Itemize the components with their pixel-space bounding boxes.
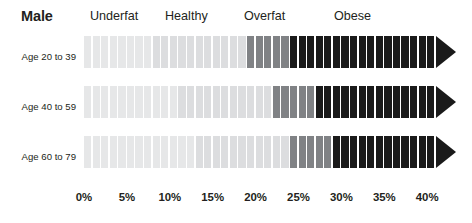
bar-segment-underfat [135,86,142,118]
axis-tick-20: 20% [244,191,267,203]
bar-segment-healthy [264,136,271,168]
bar-segment-underfat [93,36,100,68]
bar-segment-obese [419,86,426,118]
bar-segment-obese [376,136,383,168]
bar-row [0,36,472,68]
bar-segment-underfat [93,136,100,168]
bar-segment-obese [393,86,400,118]
bar-segment-overfat [281,36,288,68]
bar-segment-obese [376,86,383,118]
bar-segment-obese [367,136,374,168]
bar-segment-overfat [316,136,323,168]
bar-segment-obese [410,36,417,68]
bar-segment-underfat [170,136,177,168]
bar-segment-underfat [170,86,177,118]
bar-segment-healthy [213,36,220,68]
axis-tick-5: 5% [119,191,135,203]
category-label-healthy: Healthy [165,9,208,23]
axis-tick-35: 35% [373,191,396,203]
bar-segment-healthy [204,136,211,168]
bar-segment-obese [341,86,348,118]
bar-segment-obese [401,136,408,168]
bar-segment-overfat [307,136,314,168]
bar-segment-obese [316,36,323,68]
bar-segment-obese [307,36,314,68]
bar-segment-healthy [178,86,185,118]
bar-segment-healthy [204,36,211,68]
bar-segment-obese [316,86,323,118]
bar-segment-underfat [144,86,151,118]
bar-segment-obese [333,86,340,118]
bar-segment-healthy [196,86,203,118]
bar-arrowhead [436,36,456,68]
bar-segment-underfat [127,36,134,68]
bar-segment-overfat [290,86,297,118]
bar-segment-overfat [290,136,297,168]
bar-segment-obese [427,136,434,168]
bar-segment-obese [410,136,417,168]
bar-segment-overfat [247,36,254,68]
bar-segment-obese [393,36,400,68]
bar-segment-healthy [196,136,203,168]
bar-segment-healthy [256,136,263,168]
x-axis: 0%5%10%15%20%25%30%35%40% [0,191,472,209]
bar-segment-underfat [135,136,142,168]
bar-segment-obese [359,36,366,68]
category-label-obese: Obese [334,9,371,23]
bar-segment-obese [341,36,348,68]
bar-segment-obese [333,36,340,68]
bar-segment-healthy [264,86,271,118]
axis-tick-25: 25% [287,191,310,203]
bar-segment-obese [401,36,408,68]
bar-segment-healthy [256,86,263,118]
bar-segment-obese [393,136,400,168]
bar-segment-overfat [273,86,280,118]
bar-segment-healthy [196,36,203,68]
bar-arrowhead [436,86,456,118]
page-title: Male [21,8,53,24]
bar-segment-underfat [110,36,117,68]
bar-segment-obese [359,136,366,168]
body-fat-chart: Male UnderfatHealthyOverfatObese Age 20 … [0,0,472,223]
bar-segment-healthy [161,36,168,68]
bar-segment-obese [324,86,331,118]
bar-segment-underfat [127,86,134,118]
bar-segment-overfat [299,136,306,168]
bar-segment-underfat [118,86,125,118]
bar-arrowhead [436,136,456,168]
chart-header: Male UnderfatHealthyOverfatObese [0,8,472,28]
bar-segment-healthy [187,86,194,118]
bar-segment-obese [350,136,357,168]
bar-segment-underfat [93,86,100,118]
bar-segment-healthy [153,36,160,68]
bar-segment-obese [427,36,434,68]
bar-segment-obese [290,36,297,68]
bar-segment-underfat [84,136,91,168]
bar-segment-underfat [178,136,185,168]
axis-tick-0: 0% [76,191,92,203]
bar-segment-underfat [84,86,91,118]
bar-segment-obese [359,86,366,118]
bar-segment-underfat [101,136,108,168]
bar-segment-underfat [187,136,194,168]
bar-segment-underfat [84,36,91,68]
bar-row [0,136,472,168]
bar-segment-obese [410,86,417,118]
bar-segment-obese [350,36,357,68]
bar-segment-obese [324,36,331,68]
bar-segment-overfat [264,36,271,68]
bar-segment-overfat [299,86,306,118]
bar-segment-healthy [221,36,228,68]
bar-segment-healthy [187,36,194,68]
bar-segment-obese [299,36,306,68]
bar-segment-underfat [135,36,142,68]
bar-segment-obese [376,36,383,68]
bar-segment-obese [401,86,408,118]
bar-segment-underfat [101,86,108,118]
bar-segment-overfat [256,36,263,68]
bar-segment-healthy [213,86,220,118]
bar-segment-healthy [238,136,245,168]
bar-segment-healthy [281,136,288,168]
bar-segment-underfat [110,136,117,168]
axis-tick-30: 30% [330,191,353,203]
